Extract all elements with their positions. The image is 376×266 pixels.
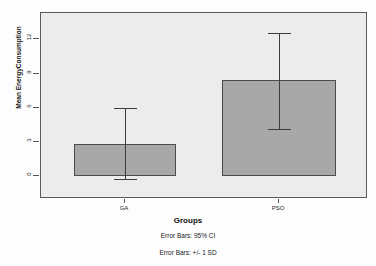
y-axis-tick-label: 9 [26, 65, 32, 79]
y-axis: Mean EnergyConsumption 12 9 6 3 0 [0, 0, 40, 210]
y-axis-title: Mean EnergyConsumption [15, 8, 22, 128]
y-axis-tick-label: 3 [26, 133, 32, 147]
error-bar-cap-upper-ga [114, 108, 137, 109]
y-axis-tick-mark [33, 38, 39, 39]
y-axis-tick-label: 12 [26, 30, 32, 44]
error-bar-cap-lower-ga [114, 179, 137, 180]
y-axis-tick-mark [33, 73, 39, 74]
error-bar-cap-lower-pso [268, 129, 291, 130]
y-axis-tick-mark [33, 141, 39, 142]
plot-area [40, 12, 367, 198]
y-axis-tick-mark [33, 175, 39, 176]
footnote-error-bars-ci: Error Bars: 95% CI [0, 232, 376, 239]
error-bar-line-pso [279, 33, 280, 129]
x-axis-tick-label: PSO [248, 205, 308, 211]
footnote-error-bars-sd: Error Bars: +/- 1 SD [0, 249, 376, 256]
x-axis-tick-mark [124, 199, 125, 203]
plot-inner [41, 13, 366, 197]
y-axis-tick-mark [33, 107, 39, 108]
y-axis-tick-label: 0 [26, 167, 32, 181]
chart-figure: Mean EnergyConsumption 12 9 6 3 0 [0, 0, 376, 266]
error-bar-cap-upper-pso [268, 33, 291, 34]
x-axis-title: Groups [0, 216, 376, 225]
error-bar-line-ga [125, 108, 126, 179]
y-axis-tick-label: 6 [26, 99, 32, 113]
x-axis-tick-mark [278, 199, 279, 203]
x-axis-tick-label: GA [94, 205, 154, 211]
